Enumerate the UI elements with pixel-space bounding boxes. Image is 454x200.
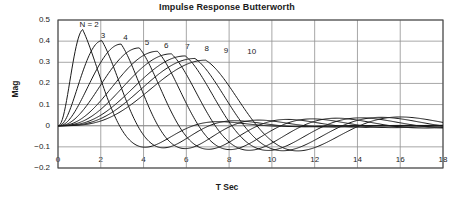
plot-frame	[58, 20, 443, 168]
curve-group	[58, 30, 443, 151]
plot-canvas	[0, 0, 454, 200]
curve-n-6	[58, 51, 443, 149]
impulse-response-chart: Impulse Response Butterworth Mag T Sec 0…	[0, 0, 454, 200]
curve-n-7	[58, 54, 443, 150]
curve-n-8	[58, 56, 443, 150]
